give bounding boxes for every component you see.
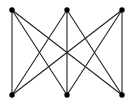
edge-layer — [12, 10, 122, 95]
node-b3 — [119, 92, 124, 97]
node-b1 — [9, 92, 14, 97]
bipartite-graph — [0, 0, 131, 101]
node-t1 — [9, 7, 14, 12]
node-t2 — [64, 7, 69, 12]
node-b2 — [64, 92, 69, 97]
node-t3 — [119, 7, 124, 12]
